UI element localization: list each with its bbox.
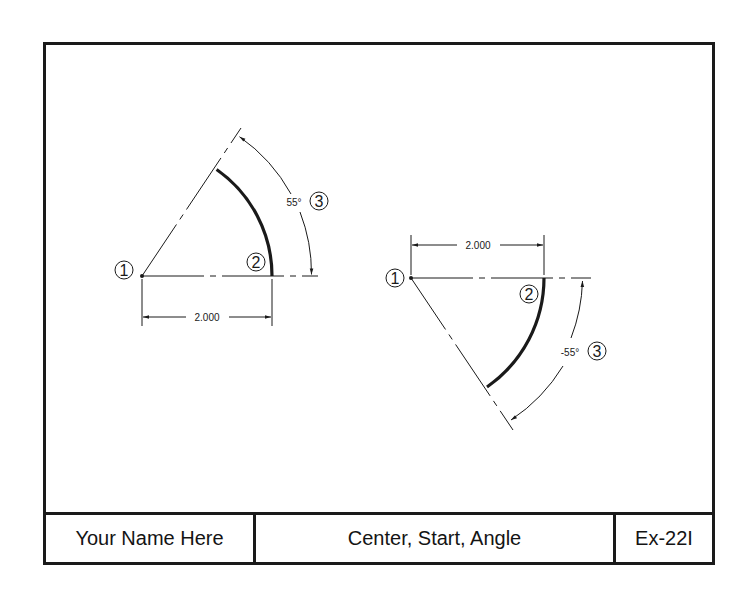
angle-dimension-arc-upper [240,137,292,194]
angle-dimension-arc-lower [511,366,563,420]
callout-3-label: 3 [593,343,602,360]
callout-2-label: 2 [252,254,261,271]
callout-3-label: 3 [315,193,324,210]
angle-dimension-text: -55° [561,347,579,358]
angle-dimension-arc-lower [300,212,312,275]
title-block-title: Center, Start, Angle [256,515,613,562]
radius-dimension-text: 2.000 [194,312,219,323]
title-block-exercise: Ex-22I [616,515,712,562]
figure-negative-angle-labels: 1 2 3 2.000 -55° [391,240,602,360]
angle-dimension-arc-upper [571,281,583,338]
center-point [140,274,144,278]
callout-2-label: 2 [525,286,534,303]
angled-centerline [411,278,513,430]
title-block-name: Your Name Here [46,515,253,562]
arc-center-start-angle [217,170,272,277]
callout-1-label: 1 [391,270,400,287]
angle-dimension-text: 55° [286,197,301,208]
radius-dimension-text: 2.000 [465,240,490,251]
figure-negative-angle [386,235,606,430]
angled-centerline [142,128,241,276]
arc-center-start-angle [487,278,544,387]
center-point [409,276,413,280]
figure-positive-angle [115,128,328,326]
figure-positive-angle-labels: 1 2 3 2.000 55° [120,193,324,323]
drawing-sheet: 1 2 3 2.000 55° 1 2 3 2.000 -55° [0,0,744,591]
sheet-border [45,44,714,564]
callout-1-label: 1 [120,262,129,279]
